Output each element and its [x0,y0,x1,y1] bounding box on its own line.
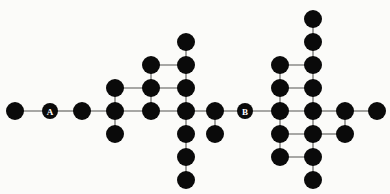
graph-node [304,125,322,143]
node-dot [304,10,322,28]
edges-layer [15,19,377,180]
graph-node [304,56,322,74]
graph-node [177,171,195,189]
node-dot [304,148,322,166]
node-dot [106,125,124,143]
node-dot [304,125,322,143]
node-dot [237,103,253,119]
node-dot [304,171,322,189]
graph-node [177,125,195,143]
graph-node [106,79,124,97]
node-dot [6,102,24,120]
node-dot [42,103,58,119]
node-dot [177,102,195,120]
node-dot [73,102,91,120]
node-dot [304,102,322,120]
graph-node [271,56,289,74]
node-dot [106,102,124,120]
graph-node [177,79,195,97]
node-dot [106,79,124,97]
graph-node [177,148,195,166]
graph-node [106,102,124,120]
graph-canvas: AB [0,0,390,194]
node-dot [177,79,195,97]
node-dot [271,125,289,143]
graph-node [336,102,354,120]
graph-node [271,148,289,166]
graph-node [177,102,195,120]
node-dot [304,79,322,97]
node-dot [142,79,160,97]
node-dot [271,148,289,166]
node-dot [206,102,224,120]
graph-node [304,79,322,97]
graph-node [304,102,322,120]
node-dot [206,125,224,143]
graph-node [177,56,195,74]
node-dot [142,102,160,120]
node-dot [368,102,386,120]
node-dot [177,33,195,51]
graph-node [304,10,322,28]
node-dot [177,171,195,189]
graph-node [271,102,289,120]
graph-node [206,102,224,120]
graph-node [6,102,24,120]
node-dot [271,102,289,120]
node-dot [336,102,354,120]
node-dot [304,56,322,74]
graph-node [177,33,195,51]
graph-node [206,125,224,143]
node-dot [177,125,195,143]
graph-node-a: A [42,103,58,119]
node-dot [271,79,289,97]
graph-node [142,102,160,120]
node-dot [304,33,322,51]
node-dot [177,56,195,74]
graph-node [304,148,322,166]
graph-node-b: B [237,103,253,119]
graph-node [304,171,322,189]
node-dot [271,56,289,74]
graph-node [336,125,354,143]
graph-node [271,125,289,143]
graph-node [73,102,91,120]
graph-diagram: AB [0,0,390,194]
graph-node [271,79,289,97]
graph-node [142,56,160,74]
graph-node [368,102,386,120]
graph-node [106,125,124,143]
node-dot [142,56,160,74]
node-dot [336,125,354,143]
graph-node [142,79,160,97]
graph-node [304,33,322,51]
node-dot [177,148,195,166]
nodes-layer: AB [6,10,386,189]
